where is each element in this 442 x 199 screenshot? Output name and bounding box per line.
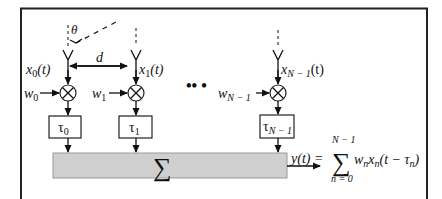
formula-term: wnxn(t − τn) — [354, 152, 420, 169]
beamformer-diagram: θ w0 x0(t) τ0 w1 x1(t) τ1 d •• • — [0, 0, 442, 199]
weight-label: wN − 1 — [218, 86, 251, 103]
formula-upper-limit: N − 1 — [331, 134, 355, 145]
weight-label: w0 — [24, 86, 38, 103]
array-element-n-minus-1: wN − 1 xN − 1(t) τN − 1 — [218, 30, 324, 152]
signal-label: x1(t) — [138, 62, 164, 79]
array-element-0: w0 x0(t) τ0 — [24, 50, 81, 152]
weight-label: w1 — [92, 86, 106, 103]
array-element-1: w1 x1(t) τ1 — [92, 28, 164, 152]
output-lhs: y(t) = — [289, 151, 323, 167]
signal-label: xN − 1(t) — [280, 62, 324, 79]
ellipsis: •• • — [186, 77, 207, 94]
spacing-indicator: d — [70, 50, 127, 66]
signal-label: x0(t) — [25, 62, 51, 79]
incident-wave: θ — [68, 22, 116, 46]
angle-theta-label: θ — [71, 22, 78, 37]
output-formula: y(t) = ∑ N − 1 n = 0 wnxn(t − τn) — [287, 134, 420, 184]
spacing-d-label: d — [96, 50, 104, 65]
wavefront-dashed-line — [76, 22, 116, 43]
summation-block: ∑ — [53, 153, 287, 182]
formula-lower-limit: n = 0 — [331, 173, 353, 184]
summation-symbol: ∑ — [153, 153, 172, 182]
